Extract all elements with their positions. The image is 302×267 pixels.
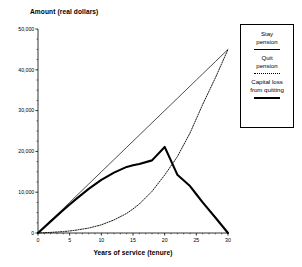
y-tick-label: 50,000 (18, 26, 34, 32)
chart-figure: Amount (real dollars) 010,00020,00030,00… (0, 0, 302, 267)
legend-entry-stay-pension: Stay pension (244, 30, 290, 50)
series-line (38, 147, 228, 233)
x-tick-label: 20 (162, 237, 168, 243)
legend-swatch-quit-pension (254, 73, 280, 74)
x-tick-label: 15 (130, 237, 136, 243)
legend-entry-capital-loss: Capital loss from quitting (244, 78, 290, 99)
x-axis-title: Years of service (tenure) (0, 249, 302, 256)
x-tick-label: 0 (37, 237, 40, 243)
y-tick-label: 20,000 (18, 148, 34, 154)
x-axis-title-text: Years of service (tenure) (93, 249, 172, 256)
legend-swatch-stay-pension (254, 49, 280, 50)
legend-label-capital-loss: Capital loss from quitting (244, 78, 290, 94)
x-tick-label: 25 (193, 237, 199, 243)
y-tick-label: 0 (31, 230, 34, 236)
y-tick-label: 10,000 (18, 189, 34, 195)
legend-entry-quit-pension: Quit pension (244, 54, 290, 74)
x-tick-label: 30 (225, 237, 231, 243)
legend-swatch-capital-loss (254, 97, 280, 99)
x-tick-label: 5 (68, 237, 71, 243)
series-line (38, 49, 228, 233)
legend: Stay pension Quit pension Capital loss f… (240, 24, 294, 128)
x-tick-label: 10 (98, 237, 104, 243)
legend-label-stay-pension: Stay pension (244, 30, 290, 46)
legend-label-quit-pension: Quit pension (244, 54, 290, 70)
y-tick-label: 40,000 (18, 67, 34, 73)
y-tick-label: 30,000 (18, 107, 34, 113)
